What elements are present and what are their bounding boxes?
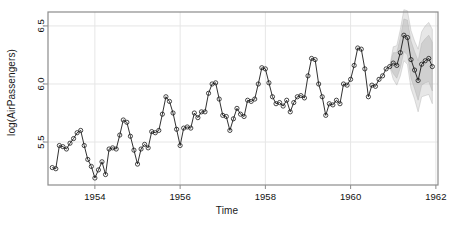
y-axis-title: log(AirPassengers) [2,0,20,185]
svg-text:5.5: 5.5 [35,135,46,148]
y-axis-title-text: log(AirPassengers) [6,49,17,136]
svg-text:6.5: 6.5 [35,19,46,32]
svg-text:6.0: 6.0 [35,77,46,90]
series-line [52,35,432,178]
svg-text:1958: 1958 [255,191,276,202]
timeseries-chart: 195419561958196019625.56.06.5 [0,0,454,231]
svg-text:1960: 1960 [340,191,361,202]
svg-text:1954: 1954 [84,191,105,202]
svg-text:1962: 1962 [425,191,446,202]
chart-plot-area: 195419561958196019625.56.06.5 log(AirPas… [0,0,454,231]
x-axis-title: Time [0,205,454,216]
grid-lines [48,12,438,185]
plot-box [48,12,438,185]
svg-text:1956: 1956 [170,191,191,202]
